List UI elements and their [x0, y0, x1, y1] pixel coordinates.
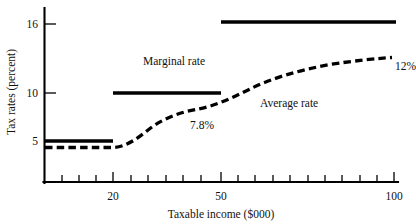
- x-tick-label-100: 100: [385, 190, 403, 202]
- x-minor-ticks: [62, 172, 394, 182]
- average-rate-label: Average rate: [260, 97, 318, 110]
- marginal-rate-label: Marginal rate: [143, 55, 205, 68]
- x-axis-title: Taxable income ($000): [168, 208, 275, 221]
- average-rate-value-7-8: 7.8%: [190, 119, 214, 131]
- x-tick-label-50: 50: [215, 190, 227, 202]
- x-tick-label-20: 20: [107, 190, 119, 202]
- chart-svg: 16 10 5 Tax rates (percent): [0, 0, 416, 224]
- y-tick-label-5: 5: [32, 135, 38, 147]
- y-axis-title: Tax rates (percent): [5, 49, 18, 135]
- y-tick-label-10: 10: [27, 87, 39, 99]
- tax-rate-chart: 16 10 5 Tax rates (percent): [0, 0, 416, 224]
- y-tick-label-16: 16: [27, 18, 39, 30]
- average-rate-curve: [45, 58, 392, 148]
- average-rate-value-12: 12%: [395, 60, 416, 72]
